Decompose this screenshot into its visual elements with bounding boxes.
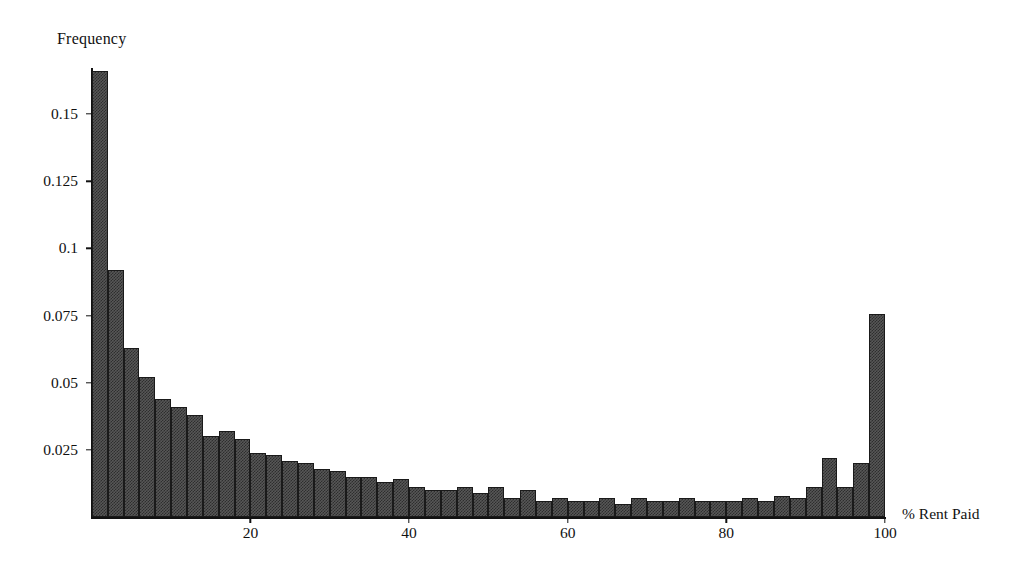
histogram-bar (425, 490, 441, 517)
histogram-bar (695, 501, 711, 517)
histogram-bar (393, 479, 409, 517)
histogram-bar (92, 71, 108, 517)
histogram-bar (235, 439, 251, 517)
histogram-bar (171, 407, 187, 517)
histogram-bar (647, 501, 663, 517)
histogram-bar (853, 463, 869, 517)
histogram-bar (584, 501, 600, 517)
histogram-bar (837, 487, 853, 517)
histogram-bar (409, 487, 425, 517)
histogram-bar (806, 487, 822, 517)
histogram-bar (615, 504, 631, 517)
histogram-bar (679, 498, 695, 517)
x-axis-title: % Rent Paid (902, 505, 980, 523)
histogram-bar (361, 477, 377, 517)
histogram-bar (330, 471, 346, 517)
histogram-bar (187, 415, 203, 517)
histogram-bar (314, 469, 330, 517)
histogram-bar (203, 436, 219, 517)
histogram-bar (282, 461, 298, 517)
histogram-bar (536, 501, 552, 517)
histogram-bar (599, 498, 615, 517)
histogram-bar (298, 463, 314, 517)
histogram-bar (139, 377, 155, 517)
histogram-bar (742, 498, 758, 517)
histogram-figure: Frequency 0.0250.050.0750.10.1250.15 204… (0, 0, 1031, 580)
histogram-bar (457, 487, 473, 517)
histogram-bar (488, 487, 504, 517)
bar-series (0, 0, 1031, 580)
histogram-bar (219, 431, 235, 517)
histogram-bar (631, 498, 647, 517)
histogram-bar (266, 455, 282, 517)
histogram-bar (377, 482, 393, 517)
histogram-bar (441, 490, 457, 517)
histogram-bar (663, 501, 679, 517)
histogram-bar (568, 501, 584, 517)
histogram-bar (520, 490, 536, 517)
histogram-bar (155, 399, 171, 517)
histogram-bar (710, 501, 726, 517)
histogram-bar (124, 348, 140, 517)
histogram-bar (504, 498, 520, 517)
histogram-bar (346, 477, 362, 517)
histogram-bar (774, 496, 790, 517)
histogram-bar (726, 501, 742, 517)
histogram-bar (790, 498, 806, 517)
histogram-bar (108, 270, 124, 517)
histogram-bar (250, 453, 266, 517)
histogram-bar (822, 458, 838, 517)
histogram-bar (869, 314, 885, 517)
histogram-bar (473, 493, 489, 517)
histogram-bar (552, 498, 568, 517)
histogram-bar (758, 501, 774, 517)
